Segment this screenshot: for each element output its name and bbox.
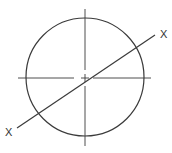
label-x-left: X xyxy=(5,126,13,138)
section-diagram: X X xyxy=(0,0,172,153)
label-x-right: X xyxy=(160,28,168,40)
cutting-plane-line xyxy=(17,35,155,128)
